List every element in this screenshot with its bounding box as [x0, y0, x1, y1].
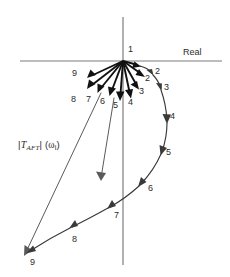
origin-vector-label-6: 6 — [100, 97, 105, 106]
magnitude-label: |TAFT| (ωi) — [18, 140, 60, 152]
locus-label-4: 4 — [170, 112, 175, 121]
origin-vector-9-arrowhead — [87, 70, 96, 79]
origin-vector-3-arrowhead — [131, 81, 140, 90]
origin-vector-label-5: 5 — [113, 101, 118, 110]
origin-vector-group — [87, 61, 145, 101]
locus-segment-7-8 — [72, 208, 108, 227]
phasor-diagram-figure: Real |TAFT| (ωi) 1 2 3 4 5 6 7 8 9 2 3 4… — [0, 0, 230, 277]
locus-curve-group — [26, 66, 171, 254]
locus-label-3: 3 — [164, 83, 169, 92]
origin-vector-6-arrowhead — [108, 87, 116, 97]
thin-vector-group — [24, 93, 114, 256]
origin-vector-8-arrowhead — [87, 80, 96, 90]
origin-vector-label-2: 2 — [145, 74, 150, 83]
locus-arrowhead-8 — [69, 220, 78, 229]
origin-vector-label-4: 4 — [128, 98, 133, 107]
locus-label-7: 7 — [114, 211, 119, 220]
downward-vector-arrowhead — [96, 172, 106, 182]
real-axis-label: Real — [183, 48, 202, 57]
locus-label-8: 8 — [72, 235, 77, 244]
origin-vector-label-3: 3 — [139, 87, 144, 96]
origin-vector-label-9: 9 — [72, 69, 77, 78]
locus-segment-5-6 — [141, 154, 161, 184]
locus-label-9: 9 — [30, 258, 35, 267]
locus-label-6: 6 — [148, 184, 153, 193]
origin-vector-label-7: 7 — [86, 95, 91, 104]
magnitude-vector-line — [27, 93, 101, 250]
origin-vector-1-arrowhead — [132, 62, 141, 69]
locus-label-5: 5 — [166, 148, 171, 157]
origin-vector-label-8: 8 — [71, 95, 76, 104]
locus-label-2: 2 — [155, 67, 160, 76]
origin-vector-label-1: 1 — [128, 45, 133, 54]
